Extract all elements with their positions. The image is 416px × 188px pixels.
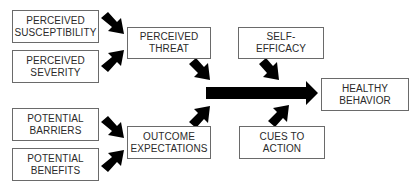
node-potential-barriers: POTENTIAL BARRIERS [12,108,99,141]
node-perceived-threat: PERCEIVED THREAT [127,27,211,59]
node-label-line2: EXPECTATIONS [131,143,208,155]
arrow-threat-to-main [189,58,210,80]
node-label-line1: PERCEIVED [26,15,85,27]
node-label-line1: POTENTIAL [27,153,83,165]
main-arrow [206,81,318,105]
node-label-line2: SEVERITY [30,67,80,79]
node-label-line1: HEALTHY [342,83,388,95]
arrow-barriers-to-outcome [101,116,124,138]
arrow-outcome-to-main [189,106,210,128]
node-perceived-severity: PERCEIVED SEVERITY [12,50,99,83]
node-label-line1: PERCEIVED [140,31,199,43]
node-label-line2: ACTION [263,143,301,155]
arrow-benefits-to-outcome [101,150,124,172]
node-outcome-expectations: OUTCOME EXPECTATIONS [127,126,211,159]
node-label-line1: SELF- [267,31,296,43]
node-label-line1: POTENTIAL [27,113,83,125]
arrow-efficacy-to-main [259,58,279,80]
node-label-line2: BARRIERS [30,125,82,137]
node-perceived-susceptibility: PERCEIVED SUSCEPTIBILITY [12,10,99,43]
node-self-efficacy: SELF- EFFICACY [238,27,324,59]
node-label-line1: PERCEIVED [26,55,85,67]
node-label-line2: SUSCEPTIBILITY [15,27,97,39]
node-label-line2: EFFICACY [256,43,306,55]
node-potential-benefits: POTENTIAL BENEFITS [12,148,99,181]
arrow-severity-to-threat [101,50,124,72]
node-label-line1: OUTCOME [143,131,195,143]
node-label-line2: THREAT [149,43,189,55]
arrow-susceptibility-to-threat [101,12,124,34]
node-healthy-behavior: HEALTHY BEHAVIOR [321,78,409,111]
node-label-line2: BENEFITS [31,165,81,177]
node-label-line2: BEHAVIOR [339,95,391,107]
node-label-line1: CUES TO [260,131,305,143]
node-cues-to-action: CUES TO ACTION [239,126,325,159]
arrow-cues-to-main [268,105,289,127]
